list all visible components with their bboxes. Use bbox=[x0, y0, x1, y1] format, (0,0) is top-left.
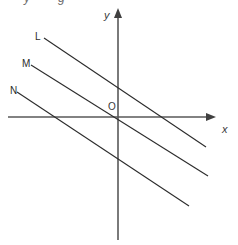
line-label-M: M bbox=[22, 59, 30, 69]
line-graph-figure: y g y x O L M N bbox=[0, 0, 238, 245]
x-axis-label: x bbox=[222, 124, 228, 135]
line-label-N: N bbox=[10, 86, 17, 96]
axes-group bbox=[8, 8, 216, 240]
y-axis-arrowhead bbox=[114, 8, 122, 18]
plotted-lines-group bbox=[17, 38, 208, 206]
graph-line-N bbox=[17, 92, 189, 206]
x-axis-arrowhead bbox=[206, 113, 216, 121]
line-label-L: L bbox=[35, 32, 41, 42]
origin-label: O bbox=[108, 102, 116, 112]
y-axis-label: y bbox=[104, 10, 110, 21]
graph-line-L bbox=[44, 38, 206, 147]
